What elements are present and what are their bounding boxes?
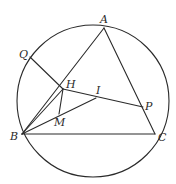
segment-AC [104,28,155,134]
label-A: A [99,13,108,26]
label-I: I [95,84,101,97]
label-H: H [65,78,76,91]
label-C: C [158,131,167,144]
segment-QH [30,57,63,89]
label-M: M [53,116,66,129]
label-Q: Q [19,48,28,61]
label-B: B [9,130,18,143]
label-P: P [144,100,153,113]
geometry-figure: A B C Q H I P M [0,0,176,184]
segment-HP [63,89,143,107]
